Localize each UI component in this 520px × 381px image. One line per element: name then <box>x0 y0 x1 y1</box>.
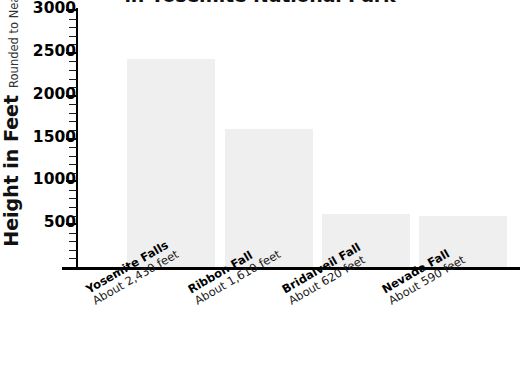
y-tick-label: 1500 <box>18 130 76 146</box>
y-tick-label: 1000 <box>18 172 76 188</box>
bar <box>127 59 215 267</box>
y-tick-label: 500 <box>18 215 76 231</box>
y-tick-label: 2000 <box>18 87 76 103</box>
chart-figure: in Yosemite National Park Height in Feet… <box>0 0 520 381</box>
chart-title: in Yosemite National Park <box>0 0 520 6</box>
y-tick-label: 2500 <box>18 44 76 60</box>
y-tick-label: 3000 <box>18 1 76 17</box>
y-axis-tick-labels: 30002500200015001000500 <box>22 0 76 381</box>
